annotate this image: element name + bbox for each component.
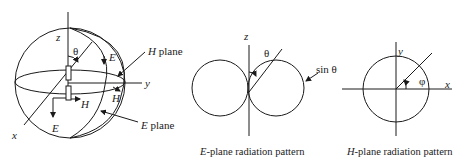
sphere-h-label-right: H [111, 92, 121, 104]
h-plane-phi-label: φ [419, 75, 425, 87]
e-plane-z-label: z [243, 30, 249, 42]
dipole-lower [66, 86, 71, 100]
sphere-z-label: z [55, 31, 61, 43]
e-plane-caption: E-plane radiation pattern [199, 146, 305, 157]
sphere-y-label: y [144, 77, 150, 89]
h-plane-pattern [342, 42, 452, 136]
sphere-diagram [15, 12, 145, 138]
h-plane-caption: H-plane radiation pattern [346, 146, 453, 157]
sphere-h-label-mid: H [80, 98, 90, 110]
dipole-upper [66, 66, 71, 80]
e-plane-theta-label: θ [264, 47, 269, 59]
e-plane-lobe-left [192, 60, 248, 116]
e-plane-pattern [192, 45, 318, 136]
sphere-x-label: x [11, 129, 17, 141]
h-plane-label: H plane [147, 45, 183, 57]
sin-theta-label: sin θ [316, 63, 337, 75]
e-plane-theta-arc [249, 72, 256, 76]
e-plane-label: E plane [140, 119, 174, 131]
sphere-theta-label: θ [73, 45, 78, 57]
e-plane-lobe-right [248, 60, 304, 116]
h-plane-x-label: x [444, 78, 450, 90]
sphere-e-label-bottom: E [51, 122, 59, 134]
e-plane-pointer [101, 111, 138, 122]
h-plane-phi-ray [396, 53, 432, 89]
sphere-e-label-top: E [108, 51, 116, 63]
h-plane-y-label: y [397, 45, 403, 57]
antenna-radiation-diagram: z θ E y H H E x H plane E plane z θ sin … [0, 0, 466, 163]
